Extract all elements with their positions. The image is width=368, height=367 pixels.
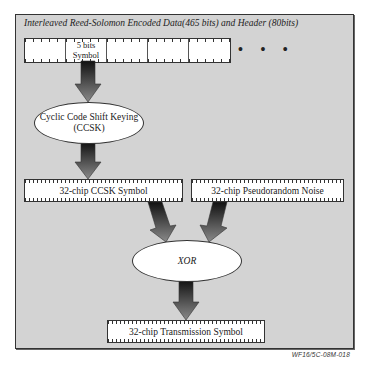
ccsk-symbol-label: 32-chip CCSK Symbol (59, 186, 147, 196)
symbol-cell (107, 39, 148, 62)
pseudorandom-noise-box: 32-chip Pseudorandom Noise (191, 179, 344, 202)
ccsk-symbol-box: 32-chip CCSK Symbol (24, 179, 183, 202)
symbol-cell (25, 39, 66, 62)
transmission-symbol-label: 32-chip Transmission Symbol (129, 327, 243, 337)
symbol-cell (148, 39, 189, 62)
symbol-cell-5bits: 5 bits Symbol (66, 39, 107, 62)
diagram-title: Interleaved Reed-Solomon Encoded Data(46… (24, 18, 298, 28)
pseudorandom-noise-label: 32-chip Pseudorandom Noise (211, 186, 323, 196)
continuation-ellipsis: • • • (238, 42, 295, 58)
ccsk-node-line1: Cyclic Code Shift Keying (40, 112, 138, 123)
ccsk-node-line2: (CCSK) (40, 123, 138, 134)
symbol-cell (189, 39, 230, 62)
ccsk-node: Cyclic Code Shift Keying (CCSK) (34, 102, 144, 144)
symbol-strip: 5 bits Symbol (24, 38, 231, 63)
transmission-symbol-box: 32-chip Transmission Symbol (107, 320, 265, 343)
xor-node: XOR (132, 240, 242, 282)
figure-id: WF16/5C-08M-018 (292, 351, 350, 358)
xor-label: XOR (178, 256, 196, 266)
